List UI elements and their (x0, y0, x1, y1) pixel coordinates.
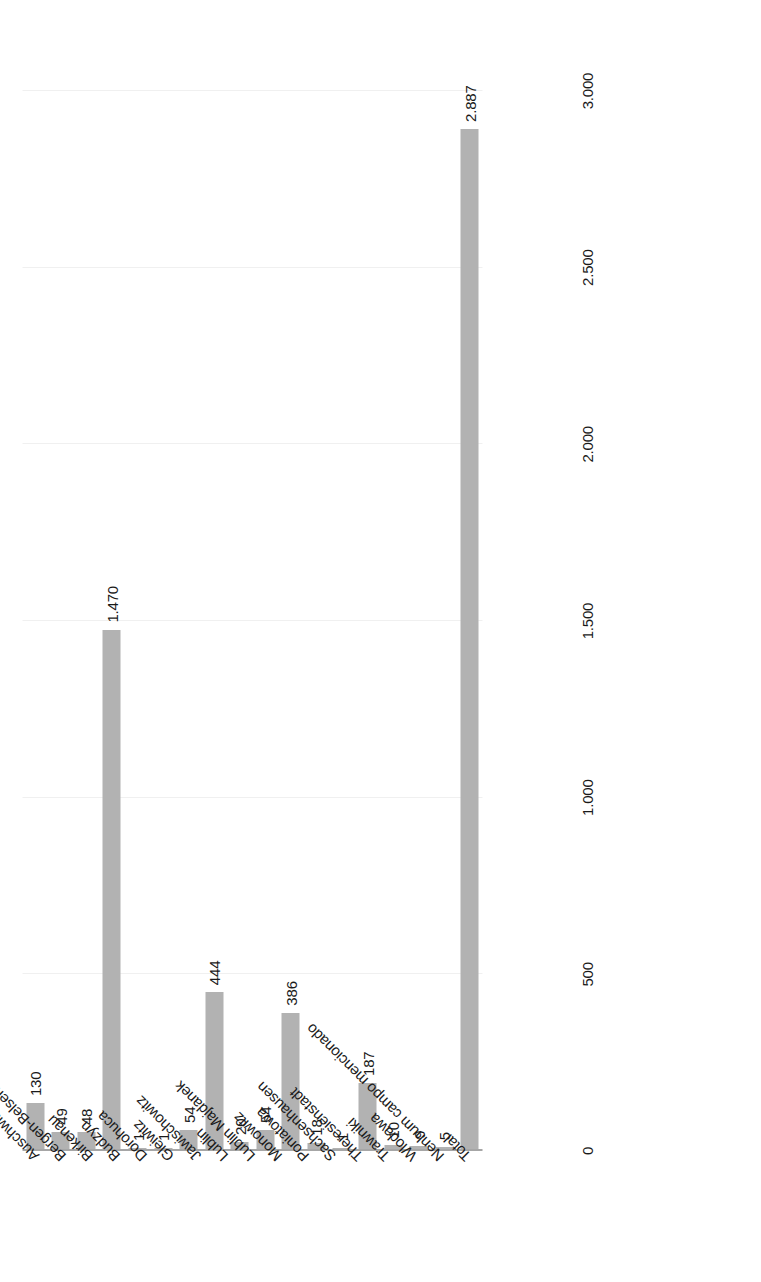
chart-figure: 13049481.4701154444205438618118710952.88… (0, 0, 761, 1282)
gridline (22, 797, 482, 798)
category-label: Lublin (218, 1153, 230, 1165)
value-tick-label: 1.000 (578, 779, 595, 816)
chart-stage: 13049481.4701154444205438618118710952.88… (0, 0, 761, 1282)
category-label: Lublin Majdanek (245, 1153, 257, 1165)
gridline (22, 443, 482, 444)
category-label: Auschwitz-Golleschau (29, 1153, 41, 1165)
bar-value-label: 2.887 (461, 85, 478, 122)
value-tick-label: 1.500 (578, 603, 595, 640)
value-tick-label: 2.500 (578, 249, 595, 286)
category-label: Trawniki (381, 1153, 393, 1165)
gridline (22, 620, 482, 621)
category-label: Monowitz (273, 1153, 285, 1165)
category-label: Dorohuca (137, 1153, 149, 1165)
category-label: Bergen-Belsen (56, 1153, 68, 1165)
chart-rotation-wrapper: 13049481.4701154444205438618118710952.88… (0, 0, 761, 1282)
category-label: Jawischowitz (191, 1153, 203, 1165)
gridline (22, 267, 482, 268)
value-tick-label: 2.000 (578, 426, 595, 463)
category-label: Birkenau (83, 1153, 95, 1165)
bar-value-label: 130 (26, 1072, 43, 1096)
category-label: Gleiwitz (164, 1153, 176, 1165)
category-label: Poniatowa (300, 1153, 312, 1165)
category-label: Budzyn (110, 1153, 122, 1165)
bar[interactable] (460, 129, 478, 1149)
gridline (22, 973, 482, 974)
bar-value-label: 444 (205, 961, 222, 985)
category-label: Wlodawa (408, 1153, 420, 1165)
bar[interactable] (102, 630, 120, 1149)
plot-area: 13049481.4701154444205438618118710952.88… (22, 91, 482, 1151)
category-label: Total (462, 1153, 474, 1165)
value-tick-label: 3.000 (578, 73, 595, 110)
category-label: Theresienstadt (354, 1153, 366, 1165)
value-tick-label: 500 (578, 962, 595, 986)
bar-value-label: 1.470 (103, 586, 120, 623)
category-label: Nenhum campo mencionado (435, 1153, 447, 1165)
category-label: Sachsenhausen (327, 1153, 339, 1165)
bar-row[interactable]: 2.887 (460, 85, 478, 1149)
bar-row[interactable]: 1.470 (102, 586, 120, 1149)
bar-value-label: 386 (282, 981, 299, 1005)
gridline (22, 90, 482, 91)
value-tick-label: 0 (578, 1147, 595, 1155)
